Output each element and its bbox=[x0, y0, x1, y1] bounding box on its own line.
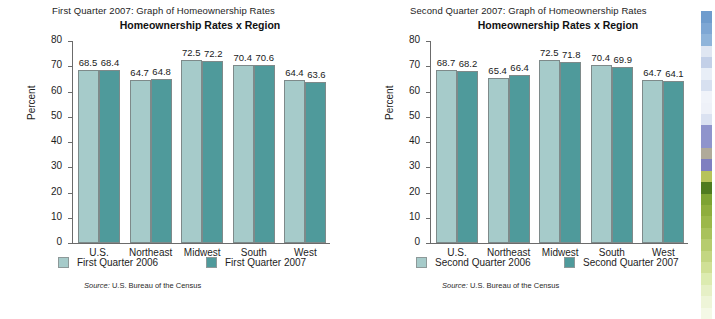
y-axis-tick: 80 bbox=[426, 41, 430, 42]
bar[interactable] bbox=[78, 70, 99, 243]
y-axis-tick: 0 bbox=[68, 243, 72, 244]
bar[interactable] bbox=[591, 65, 612, 243]
bar[interactable] bbox=[612, 67, 633, 243]
y-axis-tick-label: 10 bbox=[409, 211, 420, 222]
source-note: Source: U.S. Bureau of the Census bbox=[84, 281, 201, 290]
y-axis-tick: 50 bbox=[426, 117, 430, 118]
bar-value-label: 69.9 bbox=[610, 54, 636, 65]
bar-value-label: 68.2 bbox=[455, 58, 481, 69]
bar[interactable] bbox=[305, 82, 326, 243]
y-axis-tick-label: 60 bbox=[51, 85, 62, 96]
edge-color-swatch bbox=[701, 23, 712, 34]
bar-value-label: 64.1 bbox=[661, 68, 687, 79]
legend-item: Second Quarter 2007 bbox=[564, 257, 679, 268]
bar-group: 64.764.1West bbox=[640, 41, 684, 243]
source-text: U.S. Bureau of the Census bbox=[468, 281, 559, 290]
bar[interactable] bbox=[181, 60, 202, 243]
legend-swatch-icon bbox=[564, 257, 575, 268]
edge-color-swatch bbox=[701, 57, 712, 68]
bar[interactable] bbox=[488, 78, 509, 243]
bar-value-label: 63.6 bbox=[303, 69, 329, 80]
y-axis-tick-label: 80 bbox=[51, 34, 62, 45]
y-axis-tick-label: 80 bbox=[409, 34, 420, 45]
bar[interactable] bbox=[99, 70, 120, 243]
legend-label: Second Quarter 2007 bbox=[583, 257, 679, 268]
bar-group: 72.571.8Midwest bbox=[537, 41, 581, 243]
y-axis-tick: 60 bbox=[68, 92, 72, 93]
edge-color-swatch bbox=[701, 273, 712, 284]
bar-group: 68.768.2U.S. bbox=[434, 41, 478, 243]
edge-color-swatch bbox=[701, 262, 712, 273]
chart-caption: First Quarter 2007: Graph of Homeownersh… bbox=[52, 5, 275, 16]
edge-color-swatch bbox=[701, 216, 712, 227]
bar-group: 70.470.6South bbox=[231, 41, 275, 243]
y-axis-tick: 10 bbox=[426, 218, 430, 219]
bar-value-label: 66.4 bbox=[507, 62, 533, 73]
legend-item: First Quarter 2006 bbox=[58, 257, 158, 268]
y-axis-tick-label: 20 bbox=[409, 186, 420, 197]
bar[interactable] bbox=[457, 71, 478, 243]
chart-panel-first-quarter: First Quarter 2007: Graph of Homeownersh… bbox=[0, 0, 355, 319]
bar[interactable] bbox=[539, 60, 560, 243]
bar[interactable] bbox=[663, 81, 684, 243]
bar[interactable] bbox=[284, 80, 305, 243]
bar[interactable] bbox=[254, 65, 275, 243]
edge-color-swatch bbox=[701, 80, 712, 91]
bar[interactable] bbox=[130, 80, 151, 243]
legend-item: Second Quarter 2006 bbox=[416, 257, 531, 268]
y-axis-tick: 40 bbox=[68, 142, 72, 143]
y-axis-tick-label: 50 bbox=[51, 110, 62, 121]
bar[interactable] bbox=[436, 70, 457, 243]
source-text: U.S. Bureau of the Census bbox=[110, 281, 201, 290]
bar-group: 65.466.4Northeast bbox=[486, 41, 530, 243]
x-axis-line bbox=[72, 243, 330, 244]
bar-value-label: 68.4 bbox=[97, 57, 123, 68]
bar-group: 64.463.6West bbox=[282, 41, 326, 243]
source-note: Source: U.S. Bureau of the Census bbox=[442, 281, 559, 290]
bar[interactable] bbox=[509, 75, 530, 243]
legend-label: Second Quarter 2006 bbox=[435, 257, 531, 268]
legend-swatch-icon bbox=[206, 257, 217, 268]
bar[interactable] bbox=[151, 79, 172, 243]
bar-group: 70.469.9South bbox=[589, 41, 633, 243]
edge-color-swatch bbox=[701, 103, 712, 114]
y-axis-tick-label: 70 bbox=[51, 59, 62, 70]
source-prefix: Source: bbox=[442, 281, 468, 290]
y-axis-title: Percent bbox=[384, 86, 395, 120]
chart-caption: Second Quarter 2007: Graph of Homeowners… bbox=[410, 5, 647, 16]
chart-title: Homeownership Rates x Region bbox=[60, 19, 340, 31]
y-axis-tick-label: 0 bbox=[56, 236, 62, 247]
y-axis-tick-label: 40 bbox=[51, 135, 62, 146]
edge-color-swatch bbox=[701, 296, 712, 307]
y-axis-tick-label: 10 bbox=[51, 211, 62, 222]
bar-value-label: 64.8 bbox=[149, 66, 175, 77]
bar[interactable] bbox=[642, 80, 663, 243]
edge-color-swatch bbox=[701, 91, 712, 102]
edge-color-strip bbox=[701, 0, 712, 319]
y-axis-tick: 10 bbox=[68, 218, 72, 219]
bar[interactable] bbox=[233, 65, 254, 243]
figure-page: First Quarter 2007: Graph of Homeownersh… bbox=[0, 0, 715, 319]
y-axis-tick: 80 bbox=[68, 41, 72, 42]
edge-color-swatch bbox=[701, 308, 712, 319]
edge-color-swatch bbox=[701, 0, 712, 11]
y-axis-tick-label: 30 bbox=[51, 160, 62, 171]
legend-swatch-icon bbox=[416, 257, 427, 268]
bar[interactable] bbox=[202, 61, 223, 243]
y-axis-line bbox=[72, 41, 73, 243]
edge-color-swatch bbox=[701, 148, 712, 159]
legend-swatch-icon bbox=[58, 257, 69, 268]
bar[interactable] bbox=[560, 62, 581, 243]
legend-item: First Quarter 2007 bbox=[206, 257, 306, 268]
bar-value-label: 71.8 bbox=[558, 49, 584, 60]
y-axis-tick: 40 bbox=[426, 142, 430, 143]
bar-value-label: 72.2 bbox=[200, 48, 226, 59]
y-axis-tick: 70 bbox=[68, 66, 72, 67]
y-axis-title: Percent bbox=[26, 86, 37, 120]
y-axis-tick-label: 30 bbox=[409, 160, 420, 171]
bar-group: 72.572.2Midwest bbox=[179, 41, 223, 243]
y-axis-tick: 60 bbox=[426, 92, 430, 93]
chart-title: Homeownership Rates x Region bbox=[418, 19, 698, 31]
edge-color-swatch bbox=[701, 205, 712, 216]
y-axis-tick-label: 0 bbox=[414, 236, 420, 247]
